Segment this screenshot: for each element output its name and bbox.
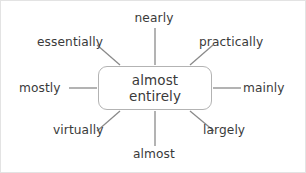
diagram-canvas: almost entirely nearly practically mainl… [0,0,306,173]
node-label-mostly[interactable]: mostly [19,81,61,95]
node-label-almost[interactable]: almost [1,147,306,161]
node-label-essentially[interactable]: essentially [37,35,103,49]
node-label-nearly[interactable]: nearly [1,11,306,25]
center-node-line-2: entirely [129,88,181,104]
center-node[interactable]: almost entirely [98,66,212,110]
node-label-practically[interactable]: practically [199,35,263,49]
node-label-mainly[interactable]: mainly [243,81,285,95]
node-label-virtually[interactable]: virtually [53,123,103,137]
center-node-line-1: almost [132,72,178,88]
node-label-largely[interactable]: largely [203,123,245,137]
